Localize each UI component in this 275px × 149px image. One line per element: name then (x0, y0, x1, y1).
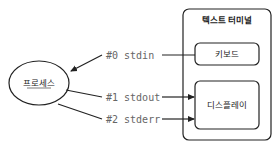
terminal-box (183, 9, 271, 140)
terminal-node: 텍스트 터미널 키보드 디스플레이 (183, 9, 271, 140)
stdin-label: #0 stdin (106, 50, 154, 61)
stderr-line-from-process (58, 104, 102, 119)
terminal-title: 텍스트 터미널 (202, 15, 253, 25)
stdout-line-from-process (66, 90, 102, 97)
display-label: 디스플레이 (207, 100, 247, 110)
stream-stderr: #2 stderr (58, 104, 194, 125)
process-label: 프로세스 (23, 78, 55, 88)
stdio-diagram: 프로세스 텍스트 터미널 키보드 디스플레이 #0 stdin #1 stdou… (0, 0, 275, 149)
stdout-label: #1 stdout (106, 92, 160, 103)
process-node: 프로세스 (9, 61, 69, 105)
keyboard-label: 키보드 (215, 49, 239, 59)
stdin-arrow-to-process (71, 55, 102, 71)
stderr-label: #2 stderr (106, 114, 160, 125)
stream-stdout: #1 stdout (66, 90, 194, 103)
stream-stdin: #0 stdin (71, 50, 195, 71)
